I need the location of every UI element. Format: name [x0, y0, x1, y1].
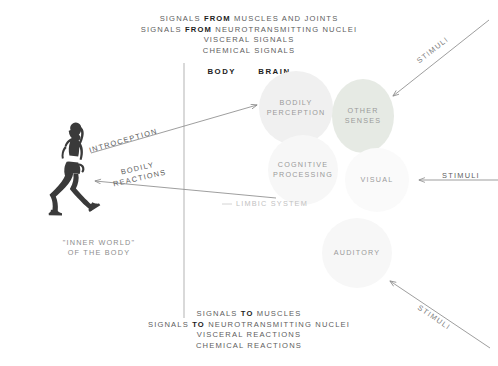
bottom-line-1-post: MUSCLES — [253, 309, 301, 318]
inner-world-label: "INNER WORLD"OF THE BODY — [54, 238, 144, 258]
bottom-signal-text-block: SIGNALS TO MUSCLES SIGNALS TO NEUROTRANS… — [0, 309, 498, 351]
bottom-line-2-strong: TO — [192, 320, 205, 329]
bottom-line-4-pre: CHEMICAL REACTIONS — [196, 341, 302, 350]
human-figure-silhouette — [49, 123, 101, 216]
stimuli-label-middle: STIMULI — [442, 171, 480, 180]
stimuli-arrow-top — [393, 20, 489, 96]
bottom-line-1-pre: SIGNALS — [197, 309, 241, 318]
bottom-signal-line-4: CHEMICAL REACTIONS — [0, 341, 498, 352]
bottom-signal-line-1: SIGNALS TO MUSCLES — [0, 309, 498, 320]
bottom-signal-line-2: SIGNALS TO NEUROTRANSMITTING NUCLEI — [0, 320, 498, 331]
bottom-signal-line-3: VISCERAL REACTIONS — [0, 330, 498, 341]
bottom-line-2-post: NEUROTRANSMITTING NUCLEI — [205, 320, 350, 329]
diagram-canvas: SIGNALS FROM MUSCLES AND JOINTS SIGNALS … — [0, 0, 498, 366]
bottom-line-3-pre: VISCERAL REACTIONS — [197, 330, 301, 339]
bottom-line-2-pre: SIGNALS — [148, 320, 192, 329]
bottom-line-1-strong: TO — [241, 309, 254, 318]
limbic-system-label: LIMBIC SYSTEM — [236, 199, 308, 208]
